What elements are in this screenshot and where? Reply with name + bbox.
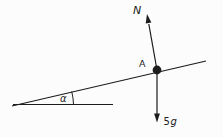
point-a-label: A <box>139 58 146 69</box>
normal-force-arrowhead <box>146 14 152 23</box>
weight-force-arrow <box>154 70 160 123</box>
particle-ball <box>153 66 162 75</box>
normal-force-label: N <box>133 4 141 17</box>
diagram-canvas: α N 5g A <box>0 0 223 137</box>
physics-diagram: α N 5g A <box>0 0 223 137</box>
angle-label: α <box>60 93 67 104</box>
weight-force-label: 5g <box>164 116 177 127</box>
weight-force-arrowhead <box>154 114 160 123</box>
incline-line <box>12 61 206 106</box>
weight-coefficient: 5 <box>164 116 170 127</box>
angle-arc <box>72 92 74 105</box>
normal-force-shaft <box>149 24 157 70</box>
normal-force-arrow <box>146 14 157 70</box>
weight-symbol: g <box>170 116 176 127</box>
